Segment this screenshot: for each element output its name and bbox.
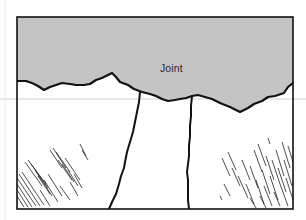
- left-hatching: [17, 144, 88, 207]
- joint-label: Joint: [160, 62, 183, 74]
- joint-space-fill: [17, 17, 293, 112]
- right-hatching: [220, 138, 293, 208]
- joint-diagram: [0, 0, 306, 220]
- right-crack-line: [187, 96, 192, 209]
- left-crack-line: [109, 92, 140, 209]
